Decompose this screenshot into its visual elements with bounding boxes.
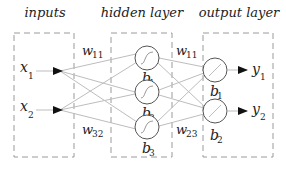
inputs-layer-box <box>14 33 74 157</box>
layer-title-inputs: inputs <box>24 5 65 20</box>
hidden-output-edges <box>158 58 205 126</box>
svg-text:32: 32 <box>92 129 103 139</box>
input-x1-sub: 1 <box>28 71 34 81</box>
weight-label-w11-in: w 11 <box>82 43 103 60</box>
neural-network-diagram: inputs hidden layer output layer x 1 x 2… <box>0 0 286 175</box>
weight-label-w32: w 32 <box>82 122 103 139</box>
output-bias-b2-sub: 2 <box>217 135 223 145</box>
output-y1-sub: 1 <box>260 72 266 82</box>
svg-text:11: 11 <box>186 50 197 60</box>
input-x1-var: x <box>20 59 28 75</box>
layer-title-hidden: hidden layer <box>101 5 184 20</box>
svg-text:11: 11 <box>92 50 103 60</box>
output-node-2: y 2 b 2 <box>203 99 266 145</box>
hidden-node-3: b 3 <box>135 115 159 158</box>
input-x2-sub: 2 <box>28 110 34 120</box>
output-y2-sub: 2 <box>260 112 266 122</box>
input-x2: x 2 <box>20 98 62 120</box>
svg-text:23: 23 <box>186 129 198 139</box>
output-node-1: y 1 b 1 <box>203 58 266 101</box>
input-x1: x 1 <box>20 59 62 81</box>
layer-title-output: output layer <box>199 5 280 20</box>
weight-label-w11-out: w 11 <box>176 43 197 60</box>
input-hidden-edges <box>60 54 137 129</box>
hidden-bias-b3-sub: 3 <box>149 148 155 158</box>
input-x2-var: x <box>20 98 28 114</box>
weight-label-w23: w 23 <box>176 122 198 139</box>
